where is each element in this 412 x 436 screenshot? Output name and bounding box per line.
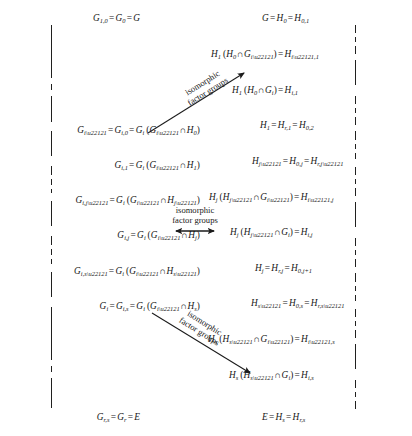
diagram-canvas: G1,0=G0=G Gi\u22121=Gi,0=Gi (Gi\u22121∩H…: [0, 0, 412, 436]
arrow-middle-label-line1: isomorphic: [145, 205, 245, 215]
arrow-middle-label-line2: factor groups: [145, 215, 245, 225]
arrow-middle-label: isomorphic factor groups: [145, 205, 245, 225]
